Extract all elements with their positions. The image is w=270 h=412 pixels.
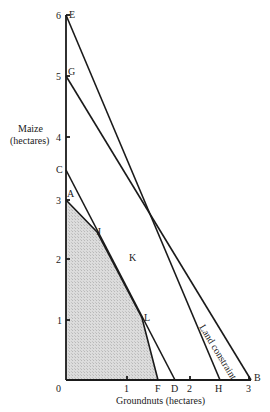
x-tick-3: 3: [246, 383, 251, 394]
point-L-label: L: [144, 312, 150, 323]
x-tick-1: 1: [124, 383, 129, 394]
y-tick-2: 2: [56, 254, 61, 265]
point-A-label: A: [67, 188, 75, 199]
x-axis-title: Groundnuts (hectares): [116, 395, 205, 407]
origin-label: 0: [56, 383, 61, 394]
y-axis-title-line1: Maize: [18, 123, 44, 134]
point-K-label: K: [129, 252, 137, 263]
production-possibility-diagram: 6 5 4 3 2 1 0 1 2 3 Maize (hectares) Gro…: [0, 0, 270, 412]
point-G-label: G: [68, 66, 75, 77]
y-tick-4: 4: [56, 132, 61, 143]
feasible-region: [66, 200, 158, 380]
point-H-label: H: [215, 383, 222, 394]
y-tick-3: 3: [56, 195, 61, 206]
point-E-label: E: [69, 9, 75, 20]
y-axis-title-line2: (hectares): [10, 135, 49, 147]
y-tick-1: 1: [57, 315, 62, 326]
y-tick-6: 6: [56, 10, 61, 21]
land-constraint-label: Land constraint: [197, 322, 239, 381]
point-B-label: B: [254, 372, 261, 383]
x-tick-2: 2: [187, 383, 192, 394]
y-tick-5: 5: [56, 71, 61, 82]
point-F-label: F: [155, 383, 161, 394]
point-J-label: J: [97, 226, 101, 237]
point-C-label: C: [56, 164, 63, 175]
point-D-label: D: [171, 383, 178, 394]
